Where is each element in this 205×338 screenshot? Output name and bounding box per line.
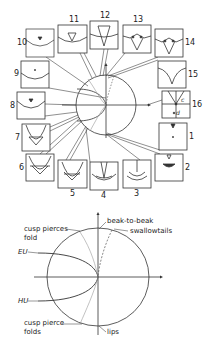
swallowtails-label: swallowtails <box>130 228 172 235</box>
panel-3 <box>123 160 151 188</box>
panel-12 <box>90 21 118 49</box>
panel-label-8: 8 <box>10 102 15 110</box>
panel-4 <box>90 162 118 190</box>
panel-label-7: 7 <box>15 134 20 142</box>
panel16-c-label: c <box>181 96 184 103</box>
panel-label-6: 6 <box>19 164 24 172</box>
panel-label-2: 2 <box>185 164 190 172</box>
panel-label-15: 15 <box>188 71 198 79</box>
cusp-pierces-fold-label-line1: cusp pierces <box>24 226 68 233</box>
cusp-pierce-folds-label-line1: cusp pierce <box>24 320 64 327</box>
panel-label-10: 10 <box>17 39 27 47</box>
panel-label-13: 13 <box>133 16 143 24</box>
panel-5 <box>58 160 87 188</box>
panel-15 <box>158 61 186 88</box>
panel-11 <box>58 25 87 53</box>
panel-label-16: 16 <box>192 101 202 109</box>
cusp-pierces-fold-label-line2: fold <box>24 235 37 242</box>
panel-label-11: 11 <box>69 16 79 24</box>
panel-label-12: 12 <box>100 12 110 20</box>
cusp-pierce-folds-label-line2: folds <box>24 329 41 336</box>
panel-7 <box>22 124 50 151</box>
bifurcation-diagram <box>0 0 205 338</box>
panel-13 <box>123 25 151 53</box>
panel-label-9: 9 <box>14 70 19 78</box>
eu-label: EU <box>18 249 28 256</box>
connector-lines <box>40 49 162 162</box>
panel-label-5: 5 <box>70 190 75 198</box>
panel-9 <box>21 61 49 88</box>
panel-label-1: 1 <box>189 133 194 141</box>
beak-to-beak-label: beak-to-beak <box>107 218 153 225</box>
panel-label-3: 3 <box>134 190 139 198</box>
panel-6 <box>26 154 54 181</box>
panel-14 <box>155 29 183 57</box>
lips-label: lips <box>107 329 119 336</box>
panel16-d-label: d <box>176 109 180 116</box>
panel-10 <box>26 29 54 57</box>
panel-2 <box>155 154 183 181</box>
panel-label-4: 4 <box>101 192 106 200</box>
panel-label-14: 14 <box>185 39 195 47</box>
hu-label: HU <box>18 298 28 305</box>
panel-1 <box>159 123 187 150</box>
panel-8 <box>17 92 45 119</box>
